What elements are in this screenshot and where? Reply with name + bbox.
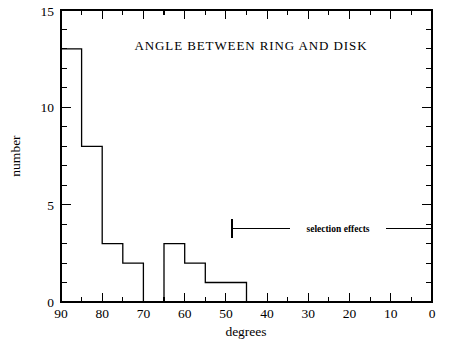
x-tick-label: 40 xyxy=(260,306,274,321)
y-tick-label: 15 xyxy=(41,4,55,19)
x-tick-label: 60 xyxy=(178,306,192,321)
x-tick-label: 50 xyxy=(219,306,233,321)
y-tick-label: 10 xyxy=(41,100,55,115)
x-tick-label: 0 xyxy=(429,306,436,321)
x-tick-label: 10 xyxy=(384,306,398,321)
histogram-chart: 90 80 70 60 50 40 30 20 10 0 0 5 10 15 d… xyxy=(0,0,449,342)
y-tick-label: 5 xyxy=(47,198,54,213)
x-axis-title: degrees xyxy=(225,324,266,339)
x-tick-label: 70 xyxy=(137,306,151,321)
chart-title: ANGLE BETWEEN RING AND DISK xyxy=(135,38,368,53)
chart-page: 90 80 70 60 50 40 30 20 10 0 0 5 10 15 d… xyxy=(0,0,449,342)
y-tick-label: 0 xyxy=(47,295,54,310)
x-tick-label: 80 xyxy=(95,306,109,321)
selection-effects-label: selection effects xyxy=(306,224,369,234)
x-tick-label: 20 xyxy=(343,306,357,321)
x-tick-label: 90 xyxy=(54,306,68,321)
x-tick-label: 30 xyxy=(302,306,316,321)
y-axis-title: number xyxy=(8,135,23,177)
